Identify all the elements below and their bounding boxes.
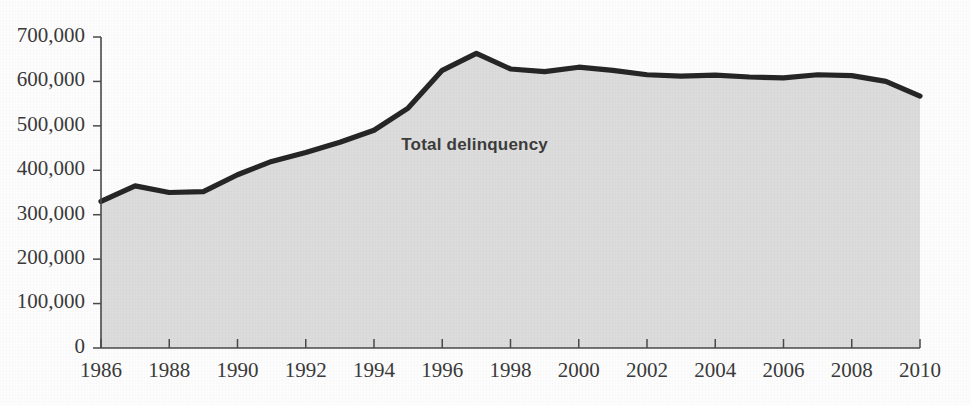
x-axis-tick-label: 2006 — [763, 358, 805, 382]
x-axis-tick-label: 1986 — [80, 358, 122, 382]
x-axis-tick-label: 2002 — [626, 358, 668, 382]
x-axis-tick-label: 1990 — [217, 358, 259, 382]
y-axis-tick-label: 600,000 — [17, 67, 85, 91]
chart-figure: 700,000600,000500,000400,000300,000200,0… — [0, 0, 970, 405]
series-annotation: Total delinquency — [401, 135, 548, 154]
x-axis-tick-label: 1988 — [148, 358, 190, 382]
y-axis-tick-label: 200,000 — [17, 245, 85, 269]
x-axis-tick-label: 2010 — [899, 358, 941, 382]
x-axis-tick-label: 2004 — [694, 358, 737, 382]
area-path — [101, 53, 920, 348]
x-axis-tick-label: 2008 — [831, 358, 873, 382]
y-axis-tick-label: 500,000 — [17, 112, 85, 136]
x-axis-tick-label: 2000 — [558, 358, 600, 382]
y-axis-tick-label: 700,000 — [17, 23, 85, 47]
x-axis-tick-labels: 1986198819901992199419961998200020022004… — [80, 358, 941, 382]
y-axis-tick-labels: 700,000600,000500,000400,000300,000200,0… — [17, 23, 85, 358]
y-axis-tick-label: 300,000 — [17, 201, 85, 225]
series-label-total-delinquency: Total delinquency — [401, 135, 548, 154]
x-axis-tick-label: 1992 — [285, 358, 327, 382]
y-axis-tick-label: 100,000 — [17, 289, 85, 313]
y-axis-tick-label: 400,000 — [17, 156, 85, 180]
y-axis-tick-label: 0 — [75, 334, 86, 358]
x-axis-tick-label: 1994 — [353, 358, 396, 382]
x-axis-tick-label: 1998 — [490, 358, 532, 382]
delinquency-area-chart: 700,000600,000500,000400,000300,000200,0… — [0, 0, 970, 405]
x-axis-tick-label: 1996 — [421, 358, 463, 382]
area-fill — [101, 53, 920, 348]
